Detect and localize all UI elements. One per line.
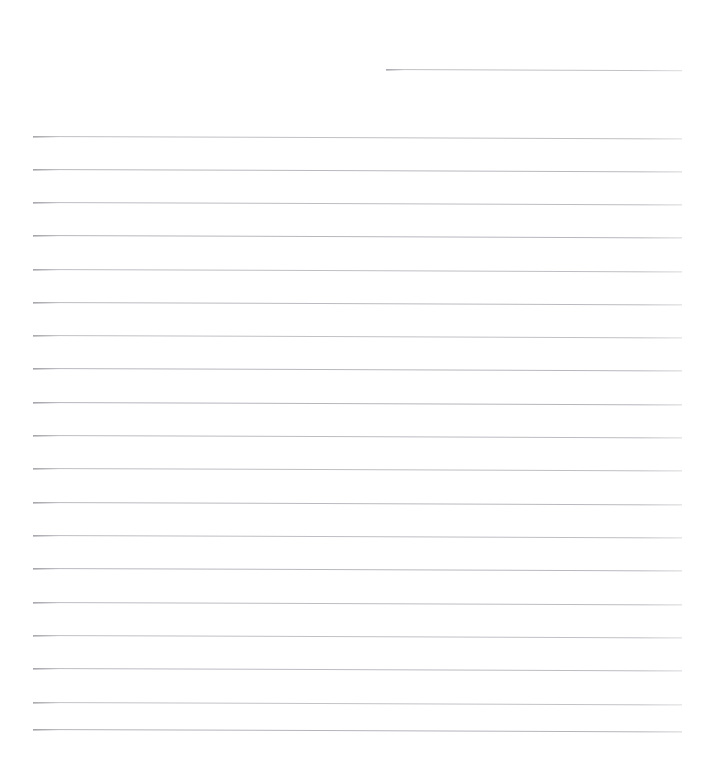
- rule-header: [386, 69, 682, 71]
- writing-area[interactable]: [33, 80, 682, 740]
- scanned-page: [0, 0, 714, 767]
